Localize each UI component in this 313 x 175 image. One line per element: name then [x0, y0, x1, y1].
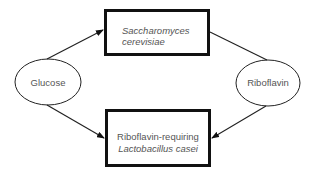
- riboflavin-label: Riboflavin: [236, 77, 300, 88]
- glucose-label: Glucose: [15, 77, 81, 88]
- arrow-glucose-to-lactobacillus: [47, 105, 104, 138]
- saccharomyces-box: Saccharomyces cerevisiae: [104, 9, 210, 56]
- line-saccharomyces-to-riboflavin: [210, 32, 267, 60]
- saccharomyces-line2: cerevisiae: [122, 36, 207, 47]
- lactobacillus-line1: Riboflavin-requiring: [108, 131, 208, 143]
- saccharomyces-line1: Saccharomyces: [122, 25, 207, 36]
- arrow-glucose-to-saccharomyces: [47, 30, 103, 59]
- lactobacillus-line2: Lactobacillus casei: [108, 143, 208, 155]
- arrow-riboflavin-to-lactobacillus: [212, 106, 266, 138]
- lactobacillus-box: Riboflavin-requiring Lactobacillus casei: [105, 109, 211, 167]
